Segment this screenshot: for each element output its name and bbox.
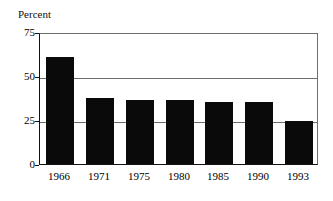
y-axis-tick-mark (35, 77, 39, 78)
y-axis-tick-label: 50 (3, 71, 35, 82)
y-axis-tick-mark (35, 33, 39, 34)
bar (86, 98, 114, 164)
bar (205, 102, 233, 164)
bar (285, 121, 313, 164)
x-axis-tick-label: 1985 (198, 170, 238, 183)
y-axis-tick-mark (35, 165, 39, 166)
bar-chart: Percent 0255075 196619711975198019851990… (0, 0, 333, 201)
y-axis-tick-label: 75 (3, 27, 35, 38)
y-axis-tick-label: 0 (3, 159, 35, 170)
x-axis-tick-label: 1971 (79, 170, 119, 183)
y-axis-tick-mark (35, 121, 39, 122)
y-axis-tick-labels: 0255075 (0, 0, 35, 201)
bars-group (40, 34, 317, 164)
y-axis-tick-label: 25 (3, 115, 35, 126)
x-axis-tick-label: 1966 (39, 170, 79, 183)
x-axis-tick-label: 1980 (159, 170, 199, 183)
plot-area (39, 33, 318, 165)
bar (126, 100, 154, 164)
bar (46, 57, 74, 164)
bar (245, 102, 273, 164)
x-axis-tick-label: 1975 (119, 170, 159, 183)
x-axis-tick-label: 1993 (278, 170, 318, 183)
x-axis-tick-label: 1990 (238, 170, 278, 183)
bar (166, 100, 194, 164)
x-axis-tick-labels: 1966197119751980198519901993 (39, 170, 318, 188)
